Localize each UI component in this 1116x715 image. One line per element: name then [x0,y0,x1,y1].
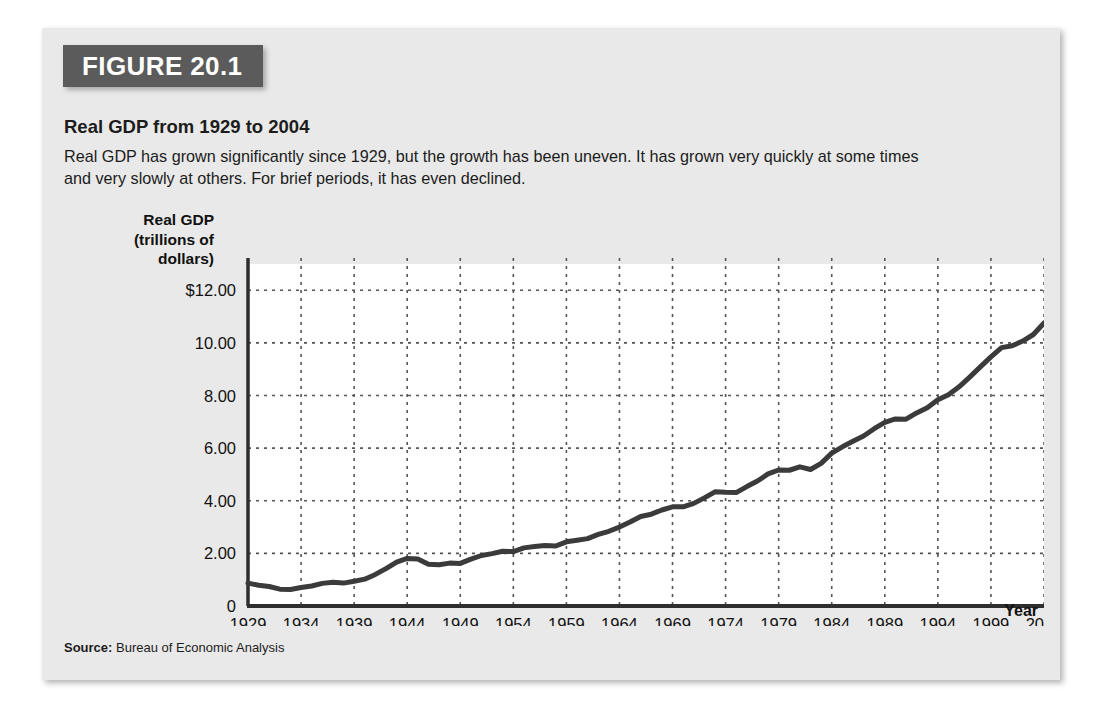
x-tick-label: 1984 [813,615,850,626]
x-tick-label: 1994 [920,615,957,626]
chart-plot-area: $12.0010.008.006.004.002.000 19291934193… [64,206,1044,626]
x-tick-label: 1929 [230,615,267,626]
x-axis-ticks: 1929193419391944194919541959196419691974… [230,615,1044,626]
figure-number-label: FIGURE 20.1 [82,51,242,82]
figure-description: Real GDP has grown significantly since 1… [64,145,944,189]
gdp-line-chart: $12.0010.008.006.004.002.000 19291934193… [64,206,1044,626]
source-label: Source: [64,640,112,655]
y-axis-ticks: $12.0010.008.006.004.002.000 [186,281,236,615]
y-tick-label: $12.00 [186,281,236,299]
source-note: Source: Bureau of Economic Analysis [64,640,284,655]
y-tick-label: 6.00 [204,439,236,457]
x-tick-label: 1949 [442,615,479,626]
source-text: Bureau of Economic Analysis [116,640,284,655]
x-axis-title: Year [1004,602,1038,620]
x-tick-label: 1939 [336,615,373,626]
x-tick-label: 1969 [654,615,691,626]
plot-background [248,264,1044,606]
figure-title: Real GDP from 1929 to 2004 [64,116,309,138]
x-tick-label: 1959 [548,615,585,626]
y-tick-label: 0 [227,597,236,615]
x-tick-label: 1954 [495,615,532,626]
y-tick-label: 2.00 [204,544,236,562]
x-tick-label: 1989 [866,615,903,626]
figure-number-banner: FIGURE 20.1 [63,45,263,87]
y-tick-label: 4.00 [204,492,236,510]
x-tick-label: 1944 [389,615,426,626]
x-tick-label: 1979 [760,615,797,626]
x-tick-label: 1964 [601,615,638,626]
figure-card: FIGURE 20.1 Real GDP from 1929 to 2004 R… [42,28,1060,680]
y-tick-label: 8.00 [204,387,236,405]
x-tick-label: 1974 [707,615,744,626]
y-tick-label: 10.00 [195,334,236,352]
x-tick-label: 1934 [283,615,320,626]
